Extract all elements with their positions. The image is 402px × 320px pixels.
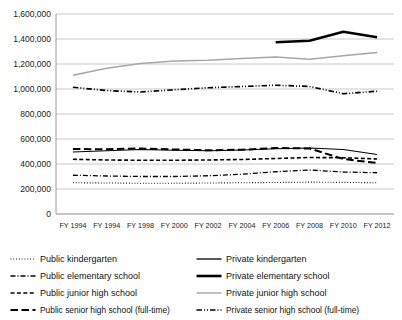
- y-axis-tick-label: 200,000: [20, 184, 51, 194]
- x-axis-tick-label: FY 2002: [195, 221, 222, 230]
- x-axis-tick-label: FY 1994: [59, 221, 86, 230]
- legend-item-label: Private elementary school: [226, 271, 330, 281]
- chart-legend: Public kindergartenPrivate kindergartenP…: [0, 248, 402, 320]
- x-axis-tick-label: FY 2010: [330, 221, 357, 230]
- legend-item-label: Public kindergarten: [40, 254, 117, 264]
- legend-swatch-solid-gray: [196, 288, 222, 298]
- y-axis-tick-label: 1,200,000: [13, 59, 51, 69]
- x-axis-tick-label: FY 2000: [161, 221, 188, 230]
- y-axis-tick-label: 1,600,000: [13, 9, 51, 19]
- legend-item[interactable]: Public kindergarten: [10, 254, 196, 264]
- legend-item-label: Public senior high school (full-time): [40, 305, 170, 315]
- y-axis-tick-label: 600,000: [20, 134, 51, 144]
- legend-item-label: Private kindergarten: [226, 254, 307, 264]
- chart-page: 0200,000400,000600,000800,0001,000,0001,…: [0, 0, 402, 320]
- legend-swatch-longdash: [10, 305, 36, 315]
- chart-plot-area: 0200,000400,000600,000800,0001,000,0001,…: [0, 0, 402, 245]
- y-axis-tick-label: 1,400,000: [13, 34, 51, 44]
- x-axis-tick-label: FY 2004: [228, 221, 255, 230]
- x-axis-tick-label: FY 2006: [262, 221, 289, 230]
- legend-swatch-solid: [196, 254, 222, 264]
- legend-item[interactable]: Private junior high school: [196, 288, 402, 298]
- legend-item[interactable]: Public senior high school (full-time): [10, 305, 196, 315]
- legend-item-label: Private senior high school (full-time): [226, 305, 359, 315]
- legend-item[interactable]: Private elementary school: [196, 271, 402, 281]
- legend-swatch-dashed: [10, 288, 36, 298]
- legend-swatch-dashdot: [10, 271, 36, 281]
- legend-grid: Public kindergartenPrivate kindergartenP…: [10, 250, 396, 318]
- legend-item[interactable]: Private kindergarten: [196, 254, 402, 264]
- y-axis-tick-labels: 0200,000400,000600,000800,0001,000,0001,…: [13, 9, 51, 219]
- x-axis-tick-label: FY 2012: [364, 221, 391, 230]
- series-lines: [73, 32, 377, 184]
- legend-swatch-solid-thick: [196, 271, 222, 281]
- legend-swatch-dotted: [10, 254, 36, 264]
- legend-item-label: Private junior high school: [226, 288, 327, 298]
- series-line: [276, 32, 377, 43]
- line-chart: 0200,000400,000600,000800,0001,000,0001,…: [0, 0, 402, 245]
- legend-swatch-dashdotdot: [196, 305, 222, 315]
- series-line: [73, 158, 377, 161]
- y-axis-tick-label: 0: [46, 209, 51, 219]
- x-axis-tick-label: FY 2008: [296, 221, 323, 230]
- legend-item[interactable]: Private senior high school (full-time): [196, 305, 402, 315]
- series-line: [73, 182, 377, 183]
- x-axis-tick-labels: FY 1994FY 1994FY 1998FY 2000FY 2002FY 20…: [59, 221, 390, 230]
- series-line: [73, 170, 377, 177]
- legend-item-label: Public junior high school: [40, 288, 137, 298]
- legend-item-label: Public elementary school: [40, 271, 140, 281]
- legend-item[interactable]: Public junior high school: [10, 288, 196, 298]
- x-axis-tick-label: FY 1998: [127, 221, 154, 230]
- y-axis-tick-label: 800,000: [20, 109, 51, 119]
- x-axis-tick-label: FY 1994: [93, 221, 120, 230]
- gridlines: [56, 14, 394, 214]
- series-line: [73, 85, 377, 94]
- y-axis-tick-label: 400,000: [20, 159, 51, 169]
- y-axis-tick-label: 1,000,000: [13, 84, 51, 94]
- legend-item[interactable]: Public elementary school: [10, 271, 196, 281]
